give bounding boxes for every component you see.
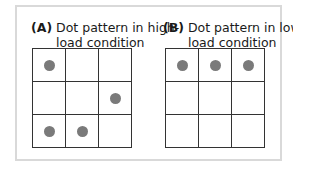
grid-cell (232, 49, 265, 82)
panel-a-title-line1: Dot pattern in high- (56, 20, 179, 35)
grid-cell (33, 49, 66, 82)
panel-a-label: (A) (31, 20, 52, 35)
grid-cell (166, 115, 199, 148)
grid-cell (66, 49, 99, 82)
panel-b-label: (B) (163, 20, 184, 35)
panel-a-title: (A) Dot pattern in high- load condition (31, 20, 179, 50)
panel-b-title: (B) Dot pattern in low- load condition (163, 20, 293, 50)
grid-cell (232, 115, 265, 148)
dot-icon (210, 60, 221, 71)
panel-b-title-line1: Dot pattern in low- (188, 20, 293, 35)
grid-cell (166, 49, 199, 82)
grid-cell (66, 82, 99, 115)
grid-cell (33, 115, 66, 148)
grid-cell (199, 49, 232, 82)
dot-icon (177, 60, 188, 71)
grid-cell (199, 82, 232, 115)
dot-icon (110, 93, 121, 104)
dot-icon (44, 126, 55, 137)
grid-cell (232, 82, 265, 115)
grid-cell (166, 82, 199, 115)
dot-icon (44, 60, 55, 71)
panel-a-dot-grid (32, 48, 132, 148)
grid-cell (99, 82, 132, 115)
grid-cell (66, 115, 99, 148)
dot-icon (77, 126, 88, 137)
panel-b-dot-grid (165, 48, 265, 148)
grid-cell (33, 82, 66, 115)
grid-cell (99, 115, 132, 148)
dot-icon (243, 60, 254, 71)
grid-cell (199, 115, 232, 148)
grid-cell (99, 49, 132, 82)
